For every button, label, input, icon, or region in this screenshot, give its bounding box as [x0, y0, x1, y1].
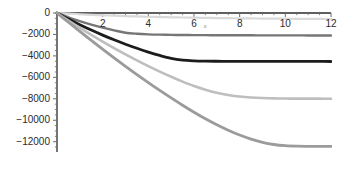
y-axis-tick-label: −4000 — [22, 51, 50, 61]
axes-group — [53, 13, 331, 152]
x-axis-name-label: x — [203, 23, 206, 30]
y-axis-tick-label: −2000 — [22, 29, 50, 39]
x-axis-tick-label: 4 — [133, 19, 163, 29]
x-axis-tick-label: 8 — [225, 19, 255, 29]
y-axis-tick-label: 0 — [44, 8, 50, 18]
x-axis-tick-label: 2 — [88, 19, 118, 29]
x-axis-tick-label: 12 — [316, 19, 341, 29]
data-series-group — [57, 13, 331, 146]
x-axis-tick-label: 10 — [270, 19, 300, 29]
y-axis-tick-label: −8000 — [22, 94, 50, 104]
y-axis-tick-label: −6000 — [22, 72, 50, 82]
y-axis-tick-label: −12000 — [16, 137, 50, 147]
y-axis-tick-label: −10000 — [16, 115, 50, 125]
